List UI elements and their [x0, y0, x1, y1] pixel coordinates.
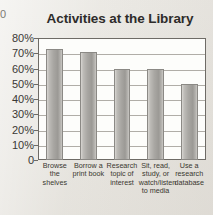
x-axis-category-line: shelves — [38, 179, 72, 187]
y-axis-tick — [34, 160, 38, 161]
bar — [46, 49, 63, 160]
chart-title: Activities at the Library — [30, 11, 210, 26]
bar — [80, 52, 97, 160]
plot-area-wrapper — [38, 38, 206, 160]
x-axis-category-label: Researchtopic ofinterest — [105, 162, 139, 187]
y-axis-tick-label: 0 — [0, 154, 34, 166]
x-axis-category-label: Browsetheshelves — [38, 162, 72, 187]
y-axis-tick-label: 80% — [0, 32, 34, 44]
x-axis-labels: BrowsetheshelvesBorrow aprint bookResear… — [38, 162, 206, 214]
y-axis-tick-label: 50% — [0, 78, 34, 90]
bar — [114, 69, 131, 161]
x-axis-category-label: Sit, read,study, orwatch/listento media — [139, 162, 173, 196]
y-axis-tick-label: 30% — [0, 108, 34, 120]
x-axis-category-label: Use aresearchdatabase — [172, 162, 206, 187]
x-axis-category-line: database — [172, 179, 206, 187]
y-axis-tick-label: 20% — [0, 124, 34, 136]
bar — [181, 84, 198, 160]
y-axis: 80%70%60%50%40%30%20%10%0 — [0, 32, 34, 166]
x-axis-category-line: interest — [105, 179, 139, 187]
y-axis-tick-label: 10% — [0, 139, 34, 151]
bar — [147, 69, 164, 161]
x-axis-category-line: to media — [139, 187, 173, 195]
x-axis-category-line: print book — [72, 170, 106, 178]
y-axis-tick-label: 70% — [0, 47, 34, 59]
y-axis-tick-label: 40% — [0, 93, 34, 105]
bar-chart: Activities at the Library 80%70%60%50%40… — [0, 0, 213, 215]
x-axis-category-label: Borrow aprint book — [72, 162, 106, 179]
y-axis-tick-label: 60% — [0, 63, 34, 75]
bar-series — [38, 38, 206, 160]
